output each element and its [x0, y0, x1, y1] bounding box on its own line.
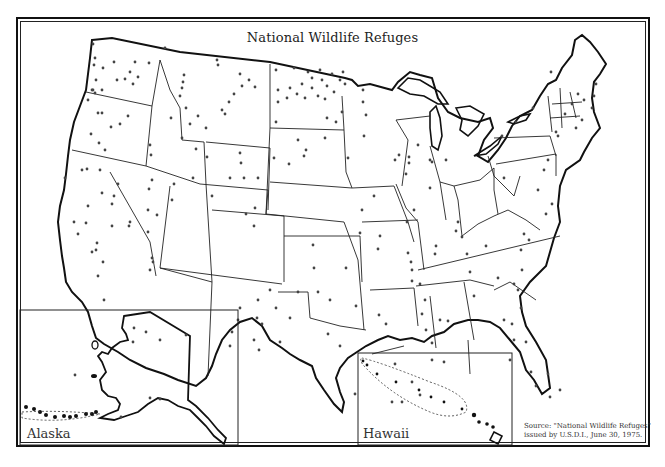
aleutian-boundary-dashed — [22, 411, 100, 420]
aleutian-islands — [24, 341, 98, 419]
lake-ontario — [508, 114, 530, 124]
state-boundaries — [72, 60, 582, 376]
source-citation: Source: "National Wildlife Refuges" issu… — [524, 422, 651, 440]
us-map — [0, 0, 665, 467]
contiguous-us-outline — [58, 35, 606, 412]
lake-michigan — [430, 106, 442, 150]
source-line-2: issued by U.S.D.I., June 30, 1975. — [524, 431, 651, 440]
hawaii-boundary-dashed — [361, 358, 467, 416]
source-line-1: Source: "National Wildlife Refuges" — [524, 422, 651, 431]
lake-erie — [474, 136, 502, 156]
alaska-label: Alaska — [27, 426, 71, 441]
hawaii-label: Hawaii — [363, 426, 409, 441]
